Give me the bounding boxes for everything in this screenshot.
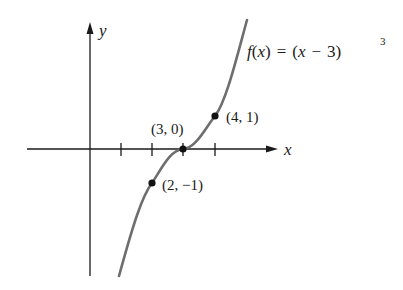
point-4-1 xyxy=(211,112,218,119)
point-label-4-1: (4, 1) xyxy=(226,109,259,126)
function-label: f(x)=(x−3) 3 xyxy=(247,35,386,61)
point-label-3-0: (3, 0) xyxy=(151,121,184,138)
function-graph: x y (3, 0) (4, 1) (2, −1) f(x)=(x−3) 3 xyxy=(0,0,403,290)
point-2-neg1 xyxy=(148,179,155,186)
x-axis-label: x xyxy=(283,140,292,159)
point-label-2-neg1: (2, −1) xyxy=(162,177,203,194)
function-label-text: f(x)=(x−3) xyxy=(247,42,341,61)
point-3-0 xyxy=(179,145,186,152)
y-axis-label: y xyxy=(97,21,107,40)
x-axis-arrow-icon xyxy=(266,146,278,153)
function-exponent: 3 xyxy=(380,35,386,47)
y-axis-arrow-icon xyxy=(87,22,94,34)
